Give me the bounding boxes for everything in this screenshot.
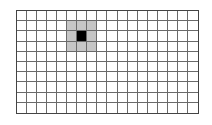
grid-cell <box>67 72 77 82</box>
grid-cell <box>138 21 148 31</box>
grid-cell <box>168 93 178 103</box>
grid-cell <box>87 93 97 103</box>
grid-cell <box>188 21 198 31</box>
grid-cell <box>148 42 158 52</box>
cell-grid <box>16 10 199 114</box>
grid-cell <box>47 31 57 41</box>
grid-cell <box>138 11 148 21</box>
grid-cell <box>188 11 198 21</box>
grid-cell <box>57 11 67 21</box>
grid-cell <box>97 103 107 113</box>
grid-cell <box>17 82 27 92</box>
grid-cell <box>17 31 27 41</box>
grid-cell <box>118 93 128 103</box>
grid-cell <box>188 103 198 113</box>
grid-cell <box>37 72 47 82</box>
grid-cell <box>148 103 158 113</box>
grid-cell <box>17 11 27 21</box>
grid-cell <box>128 42 138 52</box>
grid-cell <box>188 93 198 103</box>
grid-cell <box>47 103 57 113</box>
grid-cell <box>178 72 188 82</box>
grid-cell <box>47 21 57 31</box>
grid-cell <box>188 62 198 72</box>
grid-cell <box>77 82 87 92</box>
grid-cell <box>168 42 178 52</box>
grid-cell <box>148 72 158 82</box>
grid-cell <box>178 93 188 103</box>
grid-cell <box>27 103 37 113</box>
grid-cell <box>178 103 188 113</box>
grid-cell <box>107 21 117 31</box>
grid-cell <box>37 31 47 41</box>
grid-cell <box>57 103 67 113</box>
grid-cell <box>67 93 77 103</box>
grid-cell <box>148 52 158 62</box>
grid-cell <box>128 11 138 21</box>
grid-cell <box>138 52 148 62</box>
grid-cell <box>37 103 47 113</box>
grid-cell <box>138 82 148 92</box>
grid-cell <box>27 42 37 52</box>
grid-cell <box>158 11 168 21</box>
grid-cell <box>118 72 128 82</box>
grid-cell <box>17 103 27 113</box>
grid-cell <box>128 103 138 113</box>
grid-cell <box>178 62 188 72</box>
grid-cell <box>158 62 168 72</box>
grid-cell <box>107 72 117 82</box>
grid-cell <box>67 62 77 72</box>
grid-cell <box>97 93 107 103</box>
grid-cell <box>17 62 27 72</box>
grid-cell <box>188 52 198 62</box>
grid-cell <box>138 72 148 82</box>
selected-cell <box>77 31 87 41</box>
grid-cell <box>57 82 67 92</box>
grid-cell <box>148 11 158 21</box>
grid-cell <box>158 42 168 52</box>
grid-cell <box>107 42 117 52</box>
grid-cell <box>37 52 47 62</box>
grid-cell <box>168 52 178 62</box>
grid-cell <box>128 52 138 62</box>
grid-cell <box>168 72 178 82</box>
grid-cell <box>37 62 47 72</box>
grid-cell <box>57 31 67 41</box>
grid-cell <box>87 82 97 92</box>
grid-cell <box>158 21 168 31</box>
grid-cell <box>158 103 168 113</box>
grid-cell <box>27 93 37 103</box>
grid-cell <box>37 11 47 21</box>
grid-cell <box>178 21 188 31</box>
grid-cell <box>138 31 148 41</box>
grid-cell <box>37 93 47 103</box>
grid-cell <box>17 42 27 52</box>
grid-cell <box>188 42 198 52</box>
highlighted-cell <box>87 31 97 41</box>
grid-cell <box>128 31 138 41</box>
grid-cell <box>138 103 148 113</box>
grid-cell <box>27 82 37 92</box>
grid-cell <box>87 52 97 62</box>
grid-cell <box>77 52 87 62</box>
grid-cell <box>27 11 37 21</box>
grid-cell <box>17 52 27 62</box>
grid-cell <box>47 93 57 103</box>
grid-cell <box>107 62 117 72</box>
grid-cell <box>118 103 128 113</box>
grid-cell <box>168 11 178 21</box>
grid-cell <box>168 21 178 31</box>
grid-cell <box>57 52 67 62</box>
grid-cell <box>87 11 97 21</box>
grid-cell <box>77 62 87 72</box>
grid-cell <box>27 52 37 62</box>
grid-cell <box>97 52 107 62</box>
grid-cell <box>168 82 178 92</box>
grid-cell <box>148 21 158 31</box>
grid-cell <box>118 31 128 41</box>
grid-cell <box>57 21 67 31</box>
grid-cell <box>97 62 107 72</box>
highlighted-cell <box>67 42 77 52</box>
highlighted-cell <box>67 31 77 41</box>
grid-cell <box>178 31 188 41</box>
